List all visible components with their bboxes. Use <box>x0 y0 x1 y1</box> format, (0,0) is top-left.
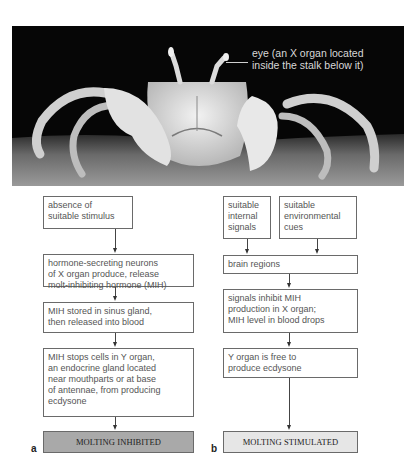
panel-label-b: b <box>211 443 217 454</box>
crab-photo: eye (an X organ located inside the stalk… <box>12 26 404 186</box>
arrow-down-icon <box>113 342 117 347</box>
step-text: Y organ is free to produce ecdysone <box>228 352 302 373</box>
arrow-down-icon <box>245 249 249 254</box>
arrow-line <box>289 378 290 426</box>
arrow-line <box>115 229 116 249</box>
arrow-down-icon <box>113 296 117 301</box>
step-mih-stored-sinus-gland: MIH stored in sinus gland, then released… <box>43 302 194 333</box>
result-molting-inhibited: MOLTING INHIBITED <box>43 431 194 453</box>
input-environmental-cues: suitable environmental cues <box>279 196 357 239</box>
arrow-down-icon <box>315 249 319 254</box>
step-text: brain regions <box>228 259 280 269</box>
input-text: suitable environmental cues <box>284 200 341 232</box>
input-text: suitable internal signals <box>228 200 259 232</box>
arrow-down-icon <box>287 283 291 288</box>
step-mih-stops-y-organ: MIH stops cells in Y organ, an endocrine… <box>43 348 194 417</box>
step-signals-inhibit-mih: signals inhibit MIH production in X orga… <box>223 289 358 333</box>
panel-label-a: a <box>31 443 37 454</box>
input-internal-signals: suitable internal signals <box>223 196 271 239</box>
arrow-down-icon <box>113 248 117 253</box>
result-text: MOLTING STIMULATED <box>243 437 339 447</box>
arrow-down-icon <box>287 425 291 430</box>
step-text: hormone-secreting neurons of X organ pro… <box>48 258 167 290</box>
step-absence-of-stimulus: absence of suitable stimulus <box>43 196 133 229</box>
eye-pointer-line <box>226 62 248 63</box>
step-text: MIH stops cells in Y organ, an endocrine… <box>48 352 161 406</box>
result-molting-stimulated: MOLTING STIMULATED <box>223 431 358 453</box>
arrow-down-icon <box>287 342 291 347</box>
step-text: absence of suitable stimulus <box>48 200 115 221</box>
step-x-organ-produce-mih: hormone-secreting neurons of X organ pro… <box>43 254 194 287</box>
step-y-organ-free: Y organ is free to produce ecdysone <box>223 348 358 378</box>
eye-annotation: eye (an X organ located inside the stalk… <box>252 47 364 71</box>
step-text: signals inhibit MIH production in X orga… <box>228 293 325 325</box>
step-brain-regions: brain regions <box>223 255 358 274</box>
arrow-down-icon <box>113 425 117 430</box>
step-text: MIH stored in sinus gland, then released… <box>48 306 152 327</box>
result-text: MOLTING INHIBITED <box>76 437 161 447</box>
eye-annotation-line-1: eye (an X organ located <box>252 47 364 59</box>
eye-annotation-line-2: inside the stalk below it) <box>252 59 364 71</box>
